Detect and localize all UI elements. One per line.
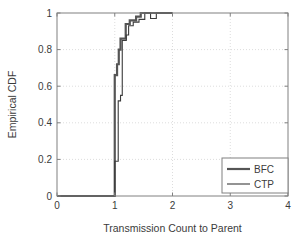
y-axis-title: Empirical CDF (6, 71, 18, 139)
legend-label-bfc: BFC (254, 164, 274, 175)
chart-legend[interactable]: BFCCTP (222, 158, 288, 193)
x-axis-title: Transmission Count to Parent (103, 222, 242, 234)
chart-plot-area: 01234 00.20.40.60.81 Transmission Count … (0, 0, 303, 239)
x-tick-label: 1 (112, 200, 118, 211)
y-tick-label: 0.6 (38, 81, 52, 92)
x-tick-label: 3 (227, 200, 233, 211)
x-tick-label: 0 (54, 200, 60, 211)
x-tick-label: 4 (285, 200, 291, 211)
y-axis-tick-labels: 00.20.40.60.81 (38, 8, 52, 202)
y-tick-label: 0.8 (38, 44, 52, 55)
x-tick-label: 2 (170, 200, 176, 211)
y-tick-label: 0.2 (38, 154, 52, 165)
y-tick-label: 0.4 (38, 117, 52, 128)
x-axis-tick-labels: 01234 (54, 200, 291, 211)
legend-label-ctp: CTP (254, 179, 274, 190)
y-tick-label: 1 (46, 8, 52, 19)
y-tick-label: 0 (46, 191, 52, 202)
chart-figure: 01234 00.20.40.60.81 Transmission Count … (0, 0, 303, 239)
